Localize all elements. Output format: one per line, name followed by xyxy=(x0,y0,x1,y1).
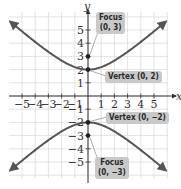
focus-top-coords: (0, 3) xyxy=(99,23,122,33)
point-focus-0-3- xyxy=(86,54,91,59)
x-tick-label: 2 xyxy=(111,98,118,111)
focus-bottom-coords: (0, −3) xyxy=(98,168,126,178)
y-tick-label: −4 xyxy=(68,143,84,156)
y-tick-label: 4 xyxy=(77,37,84,50)
x-tick-label: 4 xyxy=(137,98,144,111)
point-vertex-0-2- xyxy=(86,120,91,125)
x-tick-label: 1 xyxy=(98,98,105,111)
vertex-bottom-leader xyxy=(90,117,107,121)
vertex-bottom-label: Vertex (0, −2) xyxy=(109,113,166,122)
vertex-top-leader xyxy=(90,71,106,76)
point-focus-0-3- xyxy=(86,133,91,138)
focus-bottom-label: Focus xyxy=(98,158,126,168)
coordinate-plane: xy−5−4−3−2−11234554321−1−2−3−4−5 xyxy=(0,0,181,189)
vertex-top-label: Vertex (0, 2) xyxy=(108,72,159,81)
point-vertex-0-2- xyxy=(86,67,91,72)
x-tick-label: 5 xyxy=(151,98,158,111)
y-tick-label: 5 xyxy=(77,24,84,37)
x-axis-label: x xyxy=(176,90,181,103)
x-tick-label: 3 xyxy=(124,98,131,111)
y-tick-label: −3 xyxy=(68,130,84,143)
focus-top-callout: Focus (0, 3) xyxy=(96,12,125,34)
vertex-top-callout: Vertex (0, 2) xyxy=(105,71,162,83)
y-tick-label: −1 xyxy=(68,103,84,116)
y-tick-label: 1 xyxy=(77,77,84,90)
vertex-bottom-callout: Vertex (0, −2) xyxy=(106,112,169,124)
focus-top-label: Focus xyxy=(99,13,122,23)
y-axis-label: y xyxy=(83,0,91,13)
y-tick-label: −5 xyxy=(68,156,84,169)
y-tick-label: 3 xyxy=(77,50,84,63)
focus-bottom-callout: Focus (0, −3) xyxy=(95,157,129,179)
